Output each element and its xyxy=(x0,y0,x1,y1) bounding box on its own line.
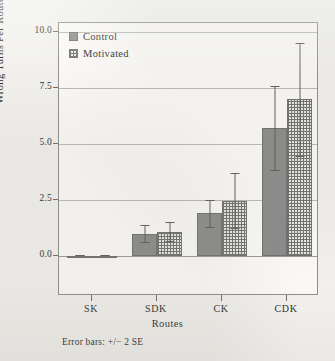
error-bar-cap-bottom xyxy=(205,227,214,228)
error-bar-ck-motivated xyxy=(222,173,247,229)
error-bar-ck-control xyxy=(197,200,222,228)
error-bar-sk-motivated xyxy=(92,255,117,256)
figure-canvas: Wrong Turns Per Route 0.02.55.07.510.0 C… xyxy=(0,0,335,361)
y-tick-label: 2.5 xyxy=(18,193,52,203)
bar-sk-control xyxy=(67,256,92,258)
x-axis-title: Routes xyxy=(0,318,335,329)
error-bar-cap-bottom xyxy=(140,242,149,243)
x-tick-label-cdk: CDK xyxy=(275,303,298,314)
y-tick-label: 10.0 xyxy=(18,25,52,35)
error-bar-sdk-control xyxy=(132,225,157,243)
error-bar-cap-bottom xyxy=(165,241,174,242)
error-bar-cap-top xyxy=(230,173,239,174)
error-bar-cap-bottom xyxy=(230,228,239,229)
error-bar-stem xyxy=(169,222,170,242)
y-tick-label: 7.5 xyxy=(18,81,52,91)
x-tick-label-sk: SK xyxy=(84,303,98,314)
y-axis-title: Wrong Turns Per Route xyxy=(0,0,5,104)
error-bar-cap-bottom xyxy=(295,156,304,157)
legend-swatch-motivated xyxy=(69,49,78,58)
error-bar-cap-top xyxy=(270,86,279,87)
error-bar-sk-control xyxy=(67,255,92,256)
plot-area: Control Motivated xyxy=(58,22,318,295)
error-bar-stem xyxy=(209,200,210,228)
legend-item-motivated: Motivated xyxy=(69,46,129,60)
error-bar-stem xyxy=(274,86,275,171)
x-tick-mark xyxy=(286,295,287,301)
error-bar-stem xyxy=(299,43,300,157)
legend-item-control: Control xyxy=(69,29,129,43)
x-tick-mark xyxy=(221,295,222,301)
x-tick-label-ck: CK xyxy=(213,303,228,314)
error-bar-cdk-control xyxy=(262,86,287,171)
legend-label-motivated: Motivated xyxy=(83,48,129,59)
error-bar-cap-top xyxy=(140,225,149,226)
legend-swatch-control xyxy=(69,32,78,41)
error-bar-footnote: Error bars: +/− 2 SE xyxy=(62,337,143,347)
y-tick-label: 5.0 xyxy=(18,137,52,147)
x-tick-label-sdk: SDK xyxy=(145,303,167,314)
error-bar-cap-top xyxy=(205,200,214,201)
error-bar-cap-bottom xyxy=(270,170,279,171)
legend-label-control: Control xyxy=(83,31,117,42)
x-tick-mark xyxy=(91,295,92,301)
error-bar-stem xyxy=(234,173,235,229)
bar-sk-motivated xyxy=(92,256,117,258)
error-bar-cap-bottom xyxy=(100,255,109,256)
y-tick-label: 0.0 xyxy=(18,249,52,259)
error-bar-stem xyxy=(144,225,145,243)
legend: Control Motivated xyxy=(69,29,129,63)
error-bar-sdk-motivated xyxy=(157,222,182,242)
error-bar-cap-top xyxy=(295,43,304,44)
x-tick-mark xyxy=(156,295,157,301)
error-bar-cap-top xyxy=(165,222,174,223)
error-bar-cap-bottom xyxy=(75,255,84,256)
error-bar-cdk-motivated xyxy=(287,43,312,157)
